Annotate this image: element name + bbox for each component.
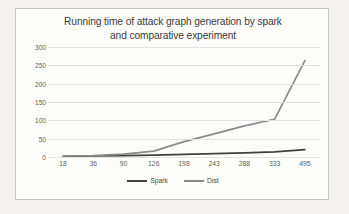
x-axis-tick-495: 495 bbox=[299, 160, 310, 167]
legend-label-spark: Spark bbox=[150, 177, 168, 184]
x-axis-tick-126: 126 bbox=[148, 160, 159, 167]
y-axis-labels: 050100150200250300 bbox=[16, 47, 46, 157]
y-axis-tick-250: 250 bbox=[18, 62, 46, 69]
y-axis-tick-150: 150 bbox=[18, 99, 46, 106]
gridline-0 bbox=[48, 157, 320, 158]
chart-card: Running time of attack graph generation … bbox=[15, 8, 329, 200]
chart-title: Running time of attack graph generation … bbox=[30, 15, 316, 42]
plot-area bbox=[48, 47, 320, 157]
x-axis-tick-333: 333 bbox=[269, 160, 280, 167]
legend-item-spark[interactable]: Spark bbox=[127, 177, 168, 184]
x-axis-tick-198: 198 bbox=[178, 160, 189, 167]
x-axis-tick-36: 36 bbox=[90, 160, 98, 167]
gridline-200 bbox=[48, 84, 320, 85]
chart-title-line-1: Running time of attack graph generation … bbox=[30, 15, 316, 29]
legend-label-dist: Dist bbox=[207, 177, 219, 184]
gridline-300 bbox=[48, 47, 320, 48]
y-axis-tick-200: 200 bbox=[18, 80, 46, 87]
series-line-dist bbox=[63, 61, 305, 157]
x-axis-tick-90: 90 bbox=[120, 160, 128, 167]
y-axis-tick-100: 100 bbox=[18, 117, 46, 124]
chart-page: Running time of attack graph generation … bbox=[0, 0, 349, 214]
gridline-100 bbox=[48, 120, 320, 121]
legend-item-dist[interactable]: Dist bbox=[184, 177, 219, 184]
gridline-50 bbox=[48, 139, 320, 140]
gridline-150 bbox=[48, 102, 320, 103]
plot-wrapper: 050100150200250300 183690126198243288333… bbox=[16, 47, 330, 179]
x-axis-tick-288: 288 bbox=[239, 160, 250, 167]
x-axis-labels: 183690126198243288333495 bbox=[48, 160, 320, 174]
chart-title-line-2: and comparative experiment bbox=[30, 29, 316, 43]
chart-legend: SparkDist bbox=[16, 177, 330, 184]
x-axis-tick-18: 18 bbox=[59, 160, 67, 167]
y-axis-tick-300: 300 bbox=[18, 44, 46, 51]
legend-swatch-dist bbox=[184, 180, 204, 182]
gridline-250 bbox=[48, 65, 320, 66]
legend-swatch-spark bbox=[127, 180, 147, 182]
y-axis-tick-50: 50 bbox=[18, 135, 46, 142]
y-axis-tick-0: 0 bbox=[18, 154, 46, 161]
x-axis-tick-243: 243 bbox=[209, 160, 220, 167]
